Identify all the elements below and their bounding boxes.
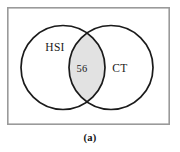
venn-diagram-figure: HSI CT 56 (a) bbox=[0, 0, 180, 152]
figure-caption: (a) bbox=[0, 132, 180, 143]
venn-diagram-canvas bbox=[0, 0, 180, 152]
set-label-ct: CT bbox=[112, 63, 127, 75]
intersection-count-label: 56 bbox=[76, 64, 87, 75]
set-label-hsi: HSI bbox=[45, 42, 64, 54]
